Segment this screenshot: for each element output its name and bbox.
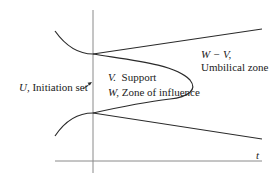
initiation-symbol: U, [19,81,30,93]
influence-label: W, Zone of influence [108,86,200,99]
initiation-text: Initiation set [30,81,88,93]
umbilical-symbol: W − V, [201,48,231,61]
umbilical-zone-label: Umbilical zone [201,61,269,74]
upper-boundary-line [93,29,262,54]
influence-symbol: W, [108,86,119,98]
lower-left-curve [55,113,93,136]
initiation-set-label: U, Initiation set [19,81,88,94]
support-symbol: V. [108,71,116,83]
support-label: V. Support [108,71,156,84]
influence-text: Zone of influence [119,86,200,98]
lower-boundary-line [93,113,262,139]
support-text: Support [116,71,156,83]
time-axis-label: t [256,149,259,162]
upper-left-curve [55,31,93,54]
